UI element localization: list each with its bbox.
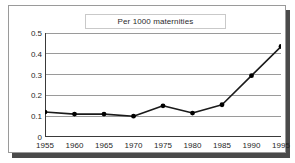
- chart-title: Per 1000 maternities: [86, 15, 225, 28]
- y-axis-tick-label: 0.3: [31, 70, 42, 79]
- y-axis-tick-label: 0.4: [31, 49, 42, 58]
- line-chart-svg: [45, 33, 281, 137]
- data-point-marker: [102, 112, 107, 117]
- x-axis-tick-label: 1985: [213, 141, 231, 150]
- y-axis-tick-label: 0.5: [31, 29, 42, 38]
- x-axis-tick-label: 1995: [272, 141, 290, 150]
- x-axis-tick-label: 1975: [154, 141, 172, 150]
- data-point-marker: [220, 102, 225, 107]
- x-axis-tick-label: 1980: [184, 141, 202, 150]
- y-axis-tick-label: 0.2: [31, 91, 42, 100]
- x-axis-tick-label: 1955: [36, 141, 54, 150]
- data-point-marker: [72, 112, 77, 117]
- chart-figure: Per 1000 maternities 00.10.20.30.40.5195…: [0, 0, 295, 163]
- x-axis-tick-label: 1965: [95, 141, 113, 150]
- data-point-marker: [249, 73, 254, 78]
- chart-title-box: Per 1000 maternities: [85, 14, 226, 29]
- figure-frame: Per 1000 maternities 00.10.20.30.40.5195…: [8, 5, 286, 153]
- x-axis-tick-label: 1970: [125, 141, 143, 150]
- x-axis-tick-label: 1960: [66, 141, 84, 150]
- plot-area: 00.10.20.30.40.5195519601965197019751980…: [45, 33, 281, 137]
- y-axis-tick-label: 0.1: [31, 112, 42, 121]
- data-point-marker: [161, 103, 166, 108]
- x-axis-tick-label: 1990: [243, 141, 261, 150]
- data-point-marker: [131, 114, 136, 119]
- data-point-marker: [45, 110, 47, 115]
- data-point-marker: [190, 111, 195, 116]
